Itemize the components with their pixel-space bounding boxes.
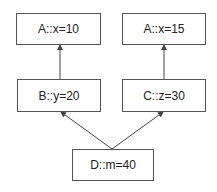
node-d-m-40: D::m=40 <box>72 149 154 181</box>
node-a-x-15: A::x=15 <box>122 13 206 45</box>
node-label: D::m=40 <box>90 158 136 172</box>
diagram-canvas: A::x=10 A::x=15 B::y=20 C::z=30 D::m=40 <box>0 0 217 192</box>
node-c-z-30: C::z=30 <box>122 79 206 112</box>
node-label: C::z=30 <box>143 89 185 103</box>
node-a-x-10: A::x=10 <box>16 13 101 45</box>
edge-d-to-b <box>61 112 112 149</box>
node-b-y-20: B::y=20 <box>17 79 101 112</box>
node-label: A::x=15 <box>143 22 184 36</box>
node-label: A::x=10 <box>38 22 79 36</box>
node-label: B::y=20 <box>38 89 79 103</box>
edge-d-to-c <box>112 112 163 149</box>
